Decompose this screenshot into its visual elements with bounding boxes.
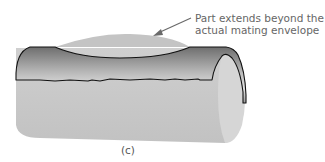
callout-arrow-line bbox=[158, 18, 191, 33]
callout-label: Part extends beyond the actual mating en… bbox=[195, 12, 324, 36]
callout-arrow-head bbox=[153, 29, 163, 36]
callout-line-1: Part extends beyond the bbox=[195, 12, 324, 24]
bump-region bbox=[55, 34, 190, 47]
figure-caption: (c) bbox=[121, 144, 135, 156]
callout-line-2: actual mating envelope bbox=[195, 24, 324, 36]
